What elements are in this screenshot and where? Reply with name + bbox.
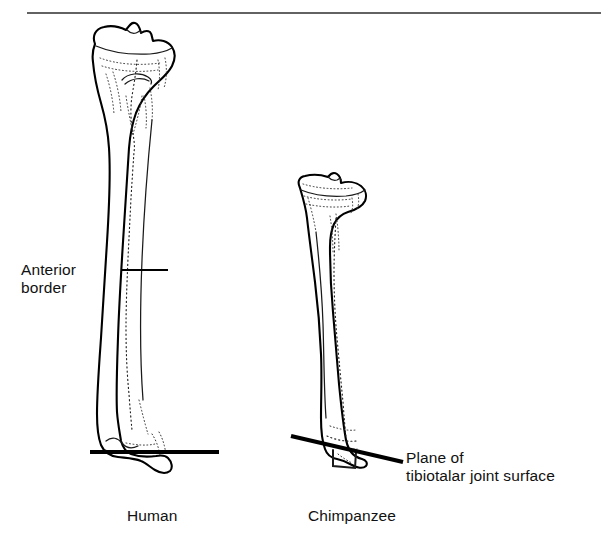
chimpanzee-caption: Chimpanzee — [308, 507, 396, 525]
anterior-border-label: Anteriorborder — [21, 261, 76, 296]
human-distal-stipple-2 — [126, 443, 155, 445]
chimpanzee-tibia-drawing — [291, 173, 403, 468]
human-lateral-condyle-hatch-3 — [150, 88, 152, 120]
human-distal-shaft-stipple — [139, 400, 148, 434]
human-lateral-shaft-line — [141, 120, 152, 400]
human-lateral-condyle-hatch-4 — [144, 96, 146, 128]
human-tibia-drawing — [90, 23, 219, 473]
human-caption: Human — [127, 507, 177, 525]
chimpanzee-tibia-outline — [299, 173, 367, 468]
tibia-comparison-figure: Anteriorborder Plane oftibiotalar joint … — [0, 0, 607, 534]
anterior-border-label-line1: Anterior — [21, 261, 76, 278]
human-tibia-outline — [93, 23, 175, 473]
joint-plane-label: Plane oftibiotalar joint surface — [406, 449, 555, 484]
joint-plane-label-line1: Plane of — [406, 449, 464, 466]
anterior-border-label-line2: border — [21, 279, 66, 296]
joint-plane-label-line2: tibiotalar joint surface — [406, 467, 555, 484]
